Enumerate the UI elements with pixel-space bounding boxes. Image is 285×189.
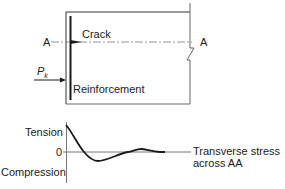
compression-label: Compression bbox=[1, 166, 66, 178]
curve-label-line1: Transverse stress bbox=[193, 145, 280, 157]
tension-label: Tension bbox=[25, 126, 63, 138]
section-label-a-right: A bbox=[200, 36, 207, 48]
load-arrow-head bbox=[60, 78, 66, 83]
load-label-subscript: k bbox=[44, 72, 48, 79]
stress-curve bbox=[66, 125, 165, 161]
crack-wedge bbox=[70, 40, 82, 44]
reinforcement-label: Reinforcement bbox=[73, 83, 145, 95]
curve-label-line2: across AA bbox=[193, 157, 243, 169]
crack-label: Crack bbox=[82, 28, 111, 40]
load-label: Pk bbox=[37, 65, 48, 82]
section-label-a-left: A bbox=[43, 36, 50, 48]
break-line bbox=[187, 3, 194, 104]
zero-label: 0 bbox=[56, 146, 62, 158]
